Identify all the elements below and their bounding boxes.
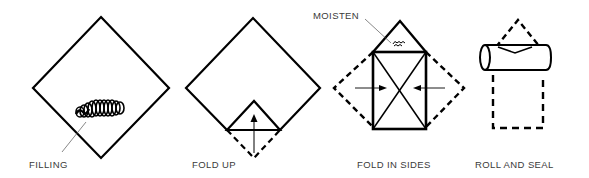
step-label-roll-and-seal: ROLL AND SEAL [475,160,554,170]
wrapper-top-peak [373,21,426,52]
step-label-fold-up: FOLD UP [192,160,236,170]
body-dashed-outline [493,75,543,128]
wrapper-diamond [33,17,169,158]
fold-up-arrow-head-icon [251,114,258,122]
cylinder-end-ellipse [480,45,490,70]
step-filling-illustration [33,17,169,158]
step-fold-up-illustration [186,18,320,158]
diagram-artwork [0,0,589,178]
step-label-fold-in-sides: FOLD IN SIDES [357,160,431,170]
left-pointing-arrow-icon [413,85,421,91]
right-flap-dashed [426,52,464,127]
filling-leader-line [62,122,86,152]
wrapping-instructions-diagram: FILLING FOLD UP FOLD IN SIDES ROLL AND S… [0,0,589,178]
top-flap-dashed [496,20,540,47]
annotation-moisten: MOISTEN [313,11,359,21]
step-fold-in-sides-illustration [334,19,464,129]
rolled-cylinder-body [485,45,551,70]
step-label-filling: FILLING [29,160,68,170]
moisten-leader-line [365,19,391,43]
left-flap-dashed [334,52,373,127]
wrapper-diamond-upper [186,18,320,131]
right-pointing-arrow-icon [379,85,387,91]
filling-scribble-icon [76,100,124,117]
step-roll-and-seal-illustration [480,20,551,128]
moisten-mark-icon [393,42,405,47]
